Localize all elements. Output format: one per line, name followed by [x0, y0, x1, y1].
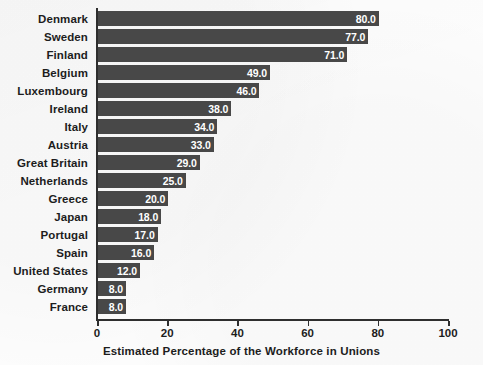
x-tick-mark — [97, 321, 99, 326]
bar-value-label: 25.0 — [163, 175, 183, 187]
bar-rows: Denmark80.0Sweden77.0Finland71.0Belgium4… — [0, 10, 483, 316]
bar-row: Netherlands25.0 — [0, 172, 483, 190]
bar-value-label: 33.0 — [191, 139, 211, 151]
bar-track: 29.0 — [98, 155, 483, 170]
bar: 38.0 — [98, 101, 231, 116]
bar-row: Japan18.0 — [0, 208, 483, 226]
bar-value-label: 16.0 — [131, 247, 151, 259]
category-label: Germany — [0, 283, 88, 295]
x-tick-label: 40 — [231, 327, 244, 339]
bar-row: Austria33.0 — [0, 136, 483, 154]
x-tick-mark — [167, 321, 169, 326]
bar: 29.0 — [98, 155, 200, 170]
category-label: United States — [0, 265, 88, 277]
bar: 71.0 — [98, 47, 347, 62]
bar: 8.0 — [98, 299, 126, 314]
bar: 16.0 — [98, 245, 154, 260]
bar-row: France8.0 — [0, 298, 483, 316]
bar-value-label: 17.0 — [135, 229, 155, 241]
bar-track: 20.0 — [98, 191, 483, 206]
category-label: Denmark — [0, 13, 88, 25]
category-label: Greece — [0, 193, 88, 205]
x-axis-ticks: 020406080100 — [0, 321, 483, 341]
category-label: Luxembourg — [0, 85, 88, 97]
bar-row: Belgium49.0 — [0, 64, 483, 82]
bar-track: 49.0 — [98, 65, 483, 80]
category-label: Great Britain — [0, 157, 88, 169]
category-label: Spain — [0, 247, 88, 259]
category-label: Sweden — [0, 31, 88, 43]
x-axis-title: Estimated Percentage of the Workforce in… — [0, 345, 483, 357]
x-tick-mark — [448, 321, 450, 326]
bar-value-label: 29.0 — [177, 157, 197, 169]
category-label: Austria — [0, 139, 88, 151]
bar: 18.0 — [98, 209, 161, 224]
bar-value-label: 38.0 — [208, 103, 228, 115]
bar-row: Italy34.0 — [0, 118, 483, 136]
bar-row: United States12.0 — [0, 262, 483, 280]
bar: 20.0 — [98, 191, 168, 206]
bar: 33.0 — [98, 137, 214, 152]
bar-row: Portugal17.0 — [0, 226, 483, 244]
category-label: Belgium — [0, 67, 88, 79]
x-tick-label: 0 — [94, 327, 100, 339]
bar: 17.0 — [98, 227, 158, 242]
bar-track: 80.0 — [98, 11, 483, 26]
bar-value-label: 8.0 — [109, 283, 123, 295]
bar-row: Spain16.0 — [0, 244, 483, 262]
bar-value-label: 18.0 — [138, 211, 158, 223]
bar: 49.0 — [98, 65, 270, 80]
bar: 8.0 — [98, 281, 126, 296]
bar-track: 77.0 — [98, 29, 483, 44]
category-label: Netherlands — [0, 175, 88, 187]
bar-chart: Denmark80.0Sweden77.0Finland71.0Belgium4… — [0, 0, 483, 365]
bar: 46.0 — [98, 83, 259, 98]
bar-track: 38.0 — [98, 101, 483, 116]
bar-track: 46.0 — [98, 83, 483, 98]
category-label: Portugal — [0, 229, 88, 241]
bar-row: Great Britain29.0 — [0, 154, 483, 172]
bar-value-label: 80.0 — [356, 13, 376, 25]
bar-track: 8.0 — [98, 281, 483, 296]
bar-value-label: 46.0 — [236, 85, 256, 97]
bar: 25.0 — [98, 173, 186, 188]
bar-track: 8.0 — [98, 299, 483, 314]
bar-track: 34.0 — [98, 119, 483, 134]
category-label: Finland — [0, 49, 88, 61]
bar-row: Finland71.0 — [0, 46, 483, 64]
x-tick-mark — [308, 321, 310, 326]
bar-track: 12.0 — [98, 263, 483, 278]
bar-track: 71.0 — [98, 47, 483, 62]
category-label: Italy — [0, 121, 88, 133]
bar-row: Germany8.0 — [0, 280, 483, 298]
bar: 12.0 — [98, 263, 140, 278]
bar-track: 16.0 — [98, 245, 483, 260]
bar-track: 33.0 — [98, 137, 483, 152]
x-tick-label: 20 — [161, 327, 174, 339]
bar-value-label: 12.0 — [117, 265, 137, 277]
category-label: Ireland — [0, 103, 88, 115]
x-tick-label: 100 — [438, 327, 457, 339]
category-label: Japan — [0, 211, 88, 223]
bar-value-label: 34.0 — [194, 121, 214, 133]
bar-row: Luxembourg46.0 — [0, 82, 483, 100]
bar-row: Greece20.0 — [0, 190, 483, 208]
bar-track: 25.0 — [98, 173, 483, 188]
x-tick-mark — [237, 321, 239, 326]
x-tick-mark — [378, 321, 380, 326]
bar-row: Sweden77.0 — [0, 28, 483, 46]
bar-value-label: 49.0 — [247, 67, 267, 79]
bar-value-label: 8.0 — [109, 301, 123, 313]
bar-track: 18.0 — [98, 209, 483, 224]
bar-row: Denmark80.0 — [0, 10, 483, 28]
bar-value-label: 20.0 — [145, 193, 165, 205]
bar: 34.0 — [98, 119, 217, 134]
bar-row: Ireland38.0 — [0, 100, 483, 118]
bar: 80.0 — [98, 11, 379, 26]
x-tick-label: 80 — [371, 327, 384, 339]
bar: 77.0 — [98, 29, 368, 44]
bar-value-label: 77.0 — [345, 31, 365, 43]
category-label: France — [0, 301, 88, 313]
bar-track: 17.0 — [98, 227, 483, 242]
x-tick-label: 60 — [301, 327, 314, 339]
